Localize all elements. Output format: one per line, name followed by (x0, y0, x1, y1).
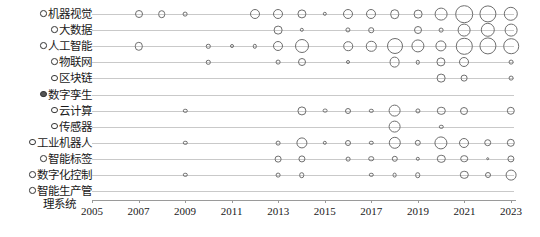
bubble-point[interactable] (323, 141, 327, 145)
bubble-point[interactable] (388, 104, 401, 117)
bubble-point[interactable] (461, 75, 468, 82)
category-label-column: 机器视觉大数据人工智能物联网区块链数字孪生云计算传感器工业机器人智能标签数字化控… (0, 0, 92, 200)
bubble-point[interactable] (346, 156, 351, 161)
bubble-point[interactable] (416, 60, 420, 64)
bubble-point[interactable] (273, 9, 283, 19)
bubble-point[interactable] (388, 137, 400, 149)
bubble-point[interactable] (459, 57, 469, 67)
bubble-point[interactable] (504, 7, 518, 21)
gridline-row (92, 127, 514, 128)
bubble-point[interactable] (158, 10, 166, 18)
plot-area: 2005200720092011201320152017201920212023 (92, 0, 540, 200)
bubble-point[interactable] (413, 10, 422, 19)
bubble-point[interactable] (276, 60, 281, 65)
bubble-point[interactable] (503, 38, 519, 54)
bubble-point[interactable] (345, 140, 351, 146)
bubble-point[interactable] (295, 39, 309, 53)
bubble-point[interactable] (456, 5, 474, 23)
bubble-point[interactable] (345, 108, 351, 114)
bubble-point[interactable] (415, 140, 421, 146)
bubble-point[interactable] (206, 60, 210, 64)
bubble-point[interactable] (183, 108, 187, 112)
x-axis-tick (92, 200, 93, 203)
bubble-point[interactable] (183, 173, 187, 177)
bubble-point[interactable] (230, 44, 234, 48)
bubble-point[interactable] (505, 24, 518, 37)
bubble-point[interactable] (206, 44, 210, 48)
category-label-text: 云计算 (59, 105, 92, 117)
bubble-point[interactable] (461, 155, 469, 163)
bubble-point[interactable] (435, 136, 448, 149)
bubble-point[interactable] (343, 9, 353, 19)
bubble-point[interactable] (439, 124, 443, 128)
bubble-point[interactable] (323, 12, 327, 16)
bubble-point[interactable] (366, 41, 376, 51)
bubble-point[interactable] (414, 26, 422, 34)
bubble-point[interactable] (436, 41, 447, 52)
bubble-point[interactable] (415, 108, 420, 113)
bubble-point[interactable] (507, 139, 515, 147)
bubble-point[interactable] (437, 155, 445, 163)
bubble-point[interactable] (460, 107, 468, 115)
bubble-point[interactable] (299, 28, 303, 32)
bubble-point[interactable] (458, 24, 471, 37)
bubble-point[interactable] (485, 172, 491, 178)
bubble-point[interactable] (298, 58, 306, 66)
bubble-point[interactable] (439, 28, 444, 33)
bubble-point[interactable] (437, 58, 446, 67)
bubble-point[interactable] (507, 106, 515, 114)
bubble-point[interactable] (509, 60, 514, 65)
bubble-point[interactable] (391, 156, 397, 162)
bubble-point[interactable] (297, 9, 306, 18)
bubble-point[interactable] (506, 170, 517, 181)
bubble-point[interactable] (253, 44, 257, 48)
bubble-point[interactable] (437, 106, 445, 114)
x-axis-tick (139, 200, 140, 203)
category-label-11: 数字化控制 (29, 168, 92, 182)
bubble-point[interactable] (411, 40, 424, 53)
bubble-point[interactable] (273, 41, 283, 51)
bubble-point[interactable] (299, 172, 305, 178)
bubble-point[interactable] (507, 155, 514, 162)
bubble-point[interactable] (486, 157, 490, 161)
bubble-point[interactable] (296, 137, 307, 148)
bubble-point[interactable] (459, 138, 469, 148)
bubble-point[interactable] (416, 157, 420, 161)
bubble-point[interactable] (183, 12, 188, 17)
bubble-point[interactable] (274, 26, 283, 35)
bubble-point[interactable] (250, 9, 260, 19)
bubble-point[interactable] (275, 155, 282, 162)
bubble-point[interactable] (369, 141, 373, 145)
bubble-point[interactable] (460, 171, 468, 179)
bubble-point[interactable] (369, 108, 373, 112)
bubble-point[interactable] (183, 141, 187, 145)
bubble-point[interactable] (456, 38, 472, 54)
bubble-point[interactable] (343, 41, 353, 51)
bubble-point[interactable] (369, 156, 375, 162)
bubble-point[interactable] (388, 120, 401, 133)
bubble-point[interactable] (509, 76, 514, 81)
bubble-point[interactable] (366, 9, 376, 19)
bubble-point[interactable] (276, 140, 281, 145)
bubble-point[interactable] (479, 38, 496, 55)
bubble-point[interactable] (415, 172, 421, 178)
bubble-point[interactable] (437, 74, 446, 83)
bubble-point[interactable] (481, 23, 495, 37)
bubble-point[interactable] (135, 10, 143, 18)
bubble-point[interactable] (346, 60, 350, 64)
bubble-point[interactable] (392, 173, 397, 178)
bubble-point[interactable] (369, 173, 373, 177)
bubble-point[interactable] (387, 38, 403, 54)
bubble-point[interactable] (297, 106, 306, 115)
bubble-point[interactable] (134, 42, 142, 50)
bubble-point[interactable] (345, 28, 350, 33)
bubble-point[interactable] (298, 155, 305, 162)
bubble-point[interactable] (435, 8, 448, 21)
bubble-point[interactable] (369, 27, 375, 33)
bubble-point[interactable] (276, 173, 281, 178)
bubble-point[interactable] (389, 57, 400, 68)
bubble-point[interactable] (484, 139, 492, 147)
bubble-point[interactable] (390, 9, 400, 19)
bubble-point[interactable] (322, 108, 327, 113)
bubble-point[interactable] (479, 5, 496, 22)
